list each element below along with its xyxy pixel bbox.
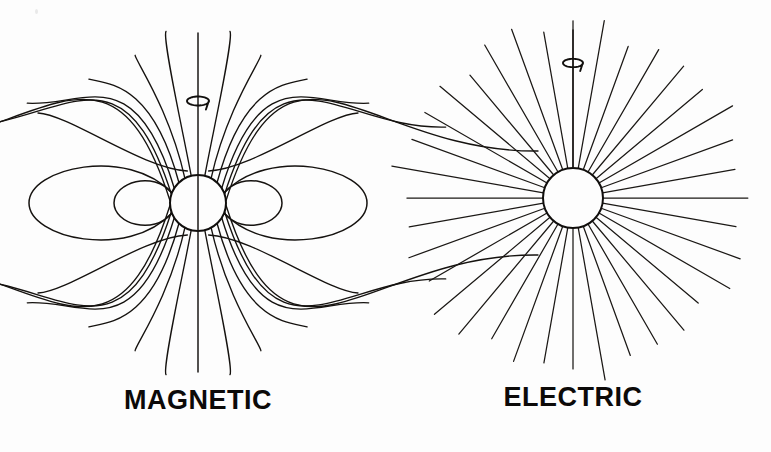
open-field-line-nr1 [211, 55, 261, 178]
radial-field-line-3 [588, 50, 659, 172]
dipole-loop-left-2 [114, 181, 172, 226]
electric-panel: ELECTRIC [392, 21, 748, 412]
dipole-loop-right-1 [224, 166, 367, 240]
field-diagram-svg: MAGNETIC ELECTRIC [0, 0, 771, 452]
dipole-loop-left-0 [29, 166, 172, 240]
radial-field-line-10 [603, 203, 736, 227]
electric-panel-label: ELECTRIC [504, 382, 643, 412]
radial-field-line-4 [592, 66, 683, 175]
scan-speck [35, 9, 38, 14]
radial-field-line-21 [492, 224, 558, 339]
magnetic-panel-label: MAGNETIC [124, 385, 272, 415]
open-field-line-sl1 [135, 228, 185, 351]
open-field-line-sr3 [222, 218, 369, 309]
open-field-line-sl3 [27, 218, 174, 309]
radial-field-line-32 [470, 75, 554, 175]
radial-field-line-35 [544, 32, 568, 168]
radial-field-line-24 [429, 213, 547, 281]
radial-field-line-29 [412, 139, 545, 187]
radial-field-line-15 [588, 224, 657, 344]
radial-field-line-13 [596, 217, 698, 303]
radial-field-line-2 [583, 46, 628, 169]
radial-field-line-16 [583, 226, 630, 355]
radial-field-line-26 [409, 203, 543, 227]
figure-canvas: MAGNETIC ELECTRIC [0, 0, 771, 452]
radial-field-line-5 [596, 89, 702, 178]
radial-field-line-31 [440, 86, 550, 178]
radial-field-line-8 [603, 169, 735, 192]
radial-field-line-22 [459, 221, 554, 334]
radial-field-line-19 [544, 228, 568, 363]
open-field-line-sr1 [211, 228, 261, 351]
open-field-line-nr3 [222, 97, 369, 188]
radial-field-line-30 [425, 112, 547, 183]
open-field-line-nl3 [27, 97, 174, 188]
magnetic-open-field-lines [0, 31, 538, 374]
magnetic-panel: MAGNETIC [0, 31, 538, 415]
electric-body-sphere [543, 168, 603, 228]
open-field-line-nl1 [135, 55, 185, 178]
dipole-loop-right-3 [224, 181, 282, 226]
radial-field-line-20 [514, 226, 563, 361]
radial-field-line-7 [601, 140, 732, 188]
open-field-line-nr4 [225, 100, 446, 194]
radial-field-line-25 [409, 208, 545, 257]
radial-field-line-14 [592, 221, 684, 330]
